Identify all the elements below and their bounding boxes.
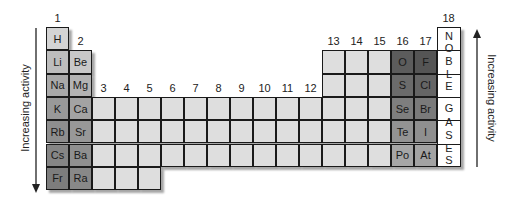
element-cell-i: I <box>414 120 437 143</box>
blank-element-cell <box>368 50 391 73</box>
blank-element-cell <box>345 50 368 73</box>
group-label-13: 13 <box>322 35 345 47</box>
group-label-15: 15 <box>368 35 391 47</box>
element-symbol: S <box>399 79 406 91</box>
blank-element-cell <box>322 97 345 120</box>
blank-element-cell <box>138 144 161 167</box>
blank-element-cell <box>299 97 322 120</box>
group-label-18: 18 <box>437 12 460 24</box>
blank-element-cell <box>299 120 322 143</box>
element-symbol: Ra <box>73 172 87 184</box>
blank-element-cell <box>322 144 345 167</box>
group-label-10: 10 <box>253 82 276 94</box>
blank-element-cell <box>253 144 276 167</box>
blank-element-cell <box>322 120 345 143</box>
noble-cell-divider <box>438 97 460 98</box>
element-symbol: Cs <box>51 149 64 161</box>
element-symbol: At <box>420 149 430 161</box>
element-cell-at: At <box>414 144 437 167</box>
element-cell-se: Se <box>391 97 414 120</box>
noble-gases-letter: E <box>438 143 460 154</box>
blank-element-cell <box>92 167 115 190</box>
group-label-7: 7 <box>184 82 207 94</box>
element-cell-s: S <box>391 74 414 97</box>
element-cell-ca: Ca <box>69 97 92 120</box>
blank-element-cell <box>184 120 207 143</box>
element-symbol: I <box>424 126 427 138</box>
right-up-arrow-icon <box>473 29 481 167</box>
element-symbol: F <box>422 56 429 68</box>
blank-element-cell <box>115 144 138 167</box>
noble-gases-letter: L <box>438 69 460 80</box>
noble-gases-letter: E <box>438 81 460 92</box>
group-label-9: 9 <box>230 82 253 94</box>
left-down-arrow-icon <box>32 28 40 193</box>
element-cell-sr: Sr <box>69 120 92 143</box>
element-cell-na: Na <box>46 74 69 97</box>
element-cell-be: Be <box>69 50 92 73</box>
element-cell-h: H <box>46 27 69 50</box>
noble-gases-letter: G <box>438 103 460 114</box>
blank-element-cell <box>161 97 184 120</box>
blank-element-cell <box>299 144 322 167</box>
blank-element-cell <box>92 97 115 120</box>
noble-gases-letter: B <box>438 56 460 67</box>
element-symbol: Se <box>396 103 409 115</box>
blank-element-cell <box>207 144 230 167</box>
element-symbol: Te <box>397 126 409 138</box>
blank-element-cell <box>368 97 391 120</box>
blank-element-cell <box>230 97 253 120</box>
element-symbol: H <box>54 33 62 45</box>
element-symbol: Ca <box>73 103 87 115</box>
blank-element-cell <box>115 120 138 143</box>
group-label-3: 3 <box>92 82 115 94</box>
blank-element-cell <box>138 97 161 120</box>
noble-gases-letter: O <box>438 43 460 54</box>
element-cell-te: Te <box>391 120 414 143</box>
group-label-4: 4 <box>115 82 138 94</box>
blank-element-cell <box>345 144 368 167</box>
group-label-14: 14 <box>345 35 368 47</box>
blank-element-cell <box>345 74 368 97</box>
blank-element-cell <box>115 167 138 190</box>
element-symbol: Rb <box>50 126 64 138</box>
element-cell-cs: Cs <box>46 144 69 167</box>
element-symbol: K <box>54 103 61 115</box>
element-cell-o: O <box>391 50 414 73</box>
noble-gases-letter: S <box>438 155 460 166</box>
element-cell-br: Br <box>414 97 437 120</box>
group-label-16: 16 <box>391 35 414 47</box>
element-symbol: Be <box>74 56 87 68</box>
group-label-8: 8 <box>207 82 230 94</box>
element-symbol: Cl <box>420 79 430 91</box>
blank-element-cell <box>253 97 276 120</box>
blank-element-cell <box>138 120 161 143</box>
element-cell-k: K <box>46 97 69 120</box>
blank-element-cell <box>368 120 391 143</box>
element-cell-f: F <box>414 50 437 73</box>
element-cell-li: Li <box>46 50 69 73</box>
blank-element-cell <box>138 167 161 190</box>
noble-gases-letter: S <box>438 130 460 141</box>
element-symbol: Li <box>53 56 62 68</box>
blank-element-cell <box>276 120 299 143</box>
blank-element-cell <box>161 144 184 167</box>
element-cell-ra: Ra <box>69 167 92 190</box>
group-label-5: 5 <box>138 82 161 94</box>
element-cell-fr: Fr <box>46 167 69 190</box>
blank-element-cell <box>368 74 391 97</box>
element-symbol: O <box>398 56 407 68</box>
element-symbol: Na <box>50 79 64 91</box>
blank-element-cell <box>92 144 115 167</box>
noble-gases-letter: A <box>438 117 460 128</box>
blank-element-cell <box>322 74 345 97</box>
element-symbol: Mg <box>73 79 88 91</box>
element-symbol: Fr <box>52 172 62 184</box>
group-label-6: 6 <box>161 82 184 94</box>
group-label-2: 2 <box>69 35 92 47</box>
left-axis-label: Increasing activity <box>19 64 31 151</box>
blank-element-cell <box>276 97 299 120</box>
blank-element-cell <box>92 120 115 143</box>
blank-element-cell <box>161 120 184 143</box>
blank-element-cell <box>345 97 368 120</box>
